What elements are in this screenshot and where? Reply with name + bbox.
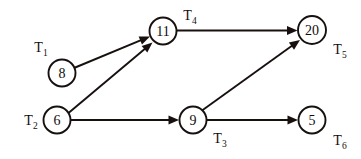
node-value: 5 [309,113,316,128]
task-label-T4: T4 [183,8,197,26]
arrow-head-icon [169,116,180,125]
task-label-T2: T2 [24,113,38,131]
node-n11[interactable]: 11 [150,18,177,45]
node-value: 8 [59,66,66,81]
diagram-canvas: 81120695 T1T4T5T2T3T6 [0,0,361,159]
node-value: 6 [54,113,61,128]
node-n6[interactable]: 6 [44,107,71,134]
nodes-layer: 81120695 [44,16,327,134]
task-precedence-graph: 81120695 T1T4T5T2T3T6 [0,0,361,159]
edge-n8-to-n11 [74,36,150,68]
node-n20[interactable]: 20 [298,16,326,44]
task-label-T5: T5 [333,42,347,60]
arrow-head-icon [139,36,150,44]
task-label-T6: T6 [333,133,347,151]
node-n8[interactable]: 8 [49,60,76,87]
node-value: 9 [190,113,197,128]
arrow-head-icon [287,26,298,35]
node-value: 11 [156,24,169,39]
edge-line [69,48,146,113]
arrow-head-icon [288,116,299,125]
edge-n11-to-n20 [177,26,298,35]
arrow-head-icon [289,40,300,50]
node-n5[interactable]: 5 [299,107,326,134]
task-label-T3: T3 [213,131,227,149]
edge-n9-to-n5 [207,116,299,125]
node-n9[interactable]: 9 [180,107,207,134]
node-value: 20 [305,23,319,38]
edge-line [74,40,142,68]
edge-n6-to-n9 [71,116,180,125]
task-label-T1: T1 [34,40,48,58]
edge-line [202,45,293,110]
edge-n9-to-n20 [202,40,300,111]
